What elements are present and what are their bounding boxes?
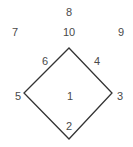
diamond-diagram: 8 7 10 9 6 4 5 1 3 2 (0, 0, 133, 147)
label-8: 8 (66, 7, 72, 18)
label-1: 1 (67, 91, 73, 102)
label-6: 6 (42, 56, 48, 67)
label-10: 10 (63, 27, 75, 38)
label-9: 9 (118, 27, 124, 38)
label-2: 2 (66, 121, 72, 132)
label-3: 3 (117, 91, 123, 102)
label-4: 4 (94, 56, 100, 67)
label-7: 7 (12, 27, 18, 38)
label-5: 5 (15, 91, 21, 102)
